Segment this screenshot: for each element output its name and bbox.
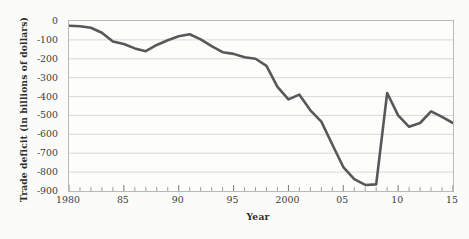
x-tick-label: 15 (427, 194, 469, 205)
x-tick-label: 05 (317, 194, 367, 205)
x-tick-label: 10 (372, 194, 422, 205)
x-tick-label: 2000 (262, 194, 312, 205)
x-tick-label: 85 (98, 194, 148, 205)
x-axis-tick-labels: 19808590952000051015 (0, 0, 469, 239)
trade-deficit-line-chart: Trade deficit (in billions of dollars) 0… (0, 0, 469, 239)
x-tick-label: 1980 (43, 194, 93, 205)
x-axis-title: Year (60, 211, 456, 222)
x-tick-label: 95 (208, 194, 258, 205)
x-tick-label: 90 (153, 194, 203, 205)
